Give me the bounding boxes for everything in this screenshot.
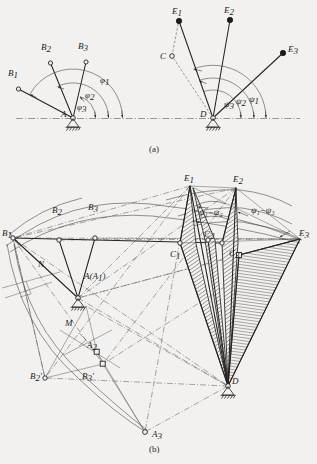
link-c-e1-dashed: [172, 22, 179, 56]
arrowhead-psi13: [238, 212, 248, 216]
joint-a3: [143, 430, 148, 435]
joint-b3-prime: [100, 361, 105, 366]
link-d-c-dashed: [172, 56, 213, 118]
joint-b2-prime: [43, 376, 47, 380]
label-panel-a-c: C: [160, 51, 167, 61]
label-b-b3: B3: [88, 202, 99, 214]
label-b-b2-prime: B2′: [30, 371, 43, 383]
joint-b3: [84, 60, 88, 64]
label-panel-a-e1: E1: [171, 6, 182, 18]
pivot-a-b-hatching: [72, 307, 86, 310]
label-psi3: ψ3: [224, 99, 235, 111]
pivot-a-hatching: [67, 127, 81, 130]
caption-panel-a: (a): [149, 144, 159, 154]
chord-c1-e3: [180, 239, 300, 243]
joint-c3: [220, 241, 224, 245]
label-panel-a-e3: E3: [287, 44, 299, 56]
panel-b: B1 B2 B3 B2′ B3′ A(A1) D A2 A3 N M C1 C2…: [2, 173, 310, 454]
label-panel-a-e2: E2: [223, 5, 235, 17]
right-angle-marker-n: [20, 281, 31, 297]
panel-b-inverted-cluster: [43, 306, 148, 434]
label-b-a3: A3: [151, 429, 163, 441]
label-b-b1: B1: [2, 228, 12, 240]
label-panel-a-b2: B2: [41, 42, 52, 54]
label-panel-a-pivot-a: A: [60, 109, 67, 119]
label-b-a2: A2: [86, 340, 98, 352]
label-panel-a-b1: B1: [8, 68, 18, 80]
label-b-c1: C1: [170, 249, 181, 261]
chord-e1-e2: [190, 186, 236, 188]
label-b-b3-prime: B3′: [82, 371, 95, 383]
panel-a-left-mechanism: [16, 60, 122, 131]
label-phi3: φ3: [77, 102, 87, 114]
label-psi2: ψ2: [236, 96, 247, 108]
panel-a: B1 B2 B3 A φ1 φ2 φ3 E1 E2 E3 C D ψ1 ψ2 ψ…: [8, 5, 300, 154]
link-b3-a: [78, 238, 95, 298]
joint-e1: [176, 18, 181, 23]
joint-c1: [178, 241, 182, 245]
joint-b2-b: [57, 238, 61, 242]
pivot-d-hatching: [207, 127, 221, 130]
label-b-pivot-a: A(A1): [83, 271, 106, 283]
joint-b3-b: [93, 236, 97, 240]
pivot-d-b-hatching: [222, 395, 236, 398]
line-through-n: [2, 272, 60, 288]
label-b-e2: E2: [232, 174, 244, 186]
joint-c: [170, 54, 175, 59]
label-phi2: φ2: [85, 90, 95, 102]
arrowhead-psi1-start: [194, 69, 202, 71]
label-b-m: M: [64, 318, 73, 328]
joint-e2: [227, 17, 232, 22]
label-b-pivot-d: D: [231, 376, 239, 386]
label-panel-a-pivot-d: D: [199, 109, 207, 119]
panel-b-right-cluster: [178, 186, 300, 399]
joint-b1: [16, 87, 20, 91]
joint-b2: [48, 61, 52, 65]
figure-root: B1 B2 B3 A φ1 φ2 φ3 E1 E2 E3 C D ψ1 ψ2 ψ…: [0, 0, 317, 464]
joint-e3: [280, 50, 285, 55]
label-panel-a-b3: B3: [78, 41, 89, 53]
label-psi1: ψ1: [249, 94, 259, 106]
line-b2prime-up: [45, 306, 86, 378]
label-angle-psi1-psi2: ψ₁−ψ₂: [199, 207, 223, 217]
label-angle-psi1-psi3: ψ₁−ψ₃: [251, 205, 275, 215]
label-phi1: φ1: [100, 75, 109, 87]
label-b-e1: E1: [183, 173, 194, 185]
label-b-e3: E3: [298, 228, 310, 240]
line-n-aux: [5, 282, 52, 298]
label-b-b2: B2: [52, 205, 63, 217]
caption-panel-b: (b): [149, 444, 160, 454]
label-b-n: N: [37, 259, 45, 269]
panel-a-right-mechanism: [170, 17, 286, 130]
figure-canvas: B1 B2 B3 A φ1 φ2 φ3 E1 E2 E3 C D ψ1 ψ2 ψ…: [0, 0, 317, 464]
